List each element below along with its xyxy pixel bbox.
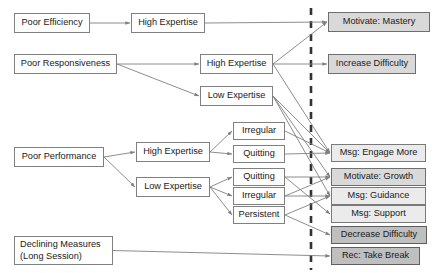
node-lo-persistent[interactable]: Persistent bbox=[233, 206, 285, 224]
node-label: Poor Efficiency bbox=[21, 17, 82, 29]
node-label: Low Expertise bbox=[208, 90, 266, 102]
node-label: High Expertise bbox=[143, 146, 203, 158]
node-label: Msg: Engage More bbox=[340, 147, 418, 159]
node-label: Quitting bbox=[243, 171, 275, 183]
node-label: Irregular bbox=[242, 125, 276, 137]
node-label: Irregular bbox=[242, 190, 276, 202]
edge-lo-persistent-to-msg-guidance bbox=[285, 196, 330, 215]
node-label: Rec: Take Break bbox=[342, 250, 409, 262]
node-hi-quitting[interactable]: Quitting bbox=[233, 145, 285, 163]
node-label: Msg: Guidance bbox=[348, 190, 410, 202]
edge-declining-measures-to-rec-take-break bbox=[113, 251, 330, 257]
node-msg-guidance[interactable]: Msg: Guidance bbox=[331, 187, 426, 205]
node-lo-quitting[interactable]: Quitting bbox=[233, 168, 285, 186]
node-label: Persistent bbox=[239, 209, 280, 221]
node-label: Msg: Support bbox=[351, 208, 406, 220]
node-msg-support[interactable]: Msg: Support bbox=[331, 205, 426, 223]
edge-lo-quitting-to-msg-support bbox=[285, 177, 330, 214]
edge-perf-high-expertise-to-hi-irregular bbox=[210, 131, 232, 152]
node-poor-efficiency[interactable]: Poor Efficiency bbox=[14, 13, 90, 33]
node-eff-high-expertise[interactable]: High Expertise bbox=[131, 13, 205, 33]
node-hi-irregular[interactable]: Irregular bbox=[233, 122, 285, 140]
node-label: Motivate: Mastery bbox=[343, 16, 416, 28]
node-label: Quitting bbox=[243, 148, 275, 160]
node-resp-low-expertise[interactable]: Low Expertise bbox=[200, 86, 273, 106]
node-poor-performance[interactable]: Poor Performance bbox=[14, 147, 104, 167]
node-increase-difficulty[interactable]: Increase Difficulty bbox=[328, 54, 416, 74]
node-perf-high-expertise[interactable]: High Expertise bbox=[136, 142, 210, 162]
edge-poor-performance-to-perf-high-expertise bbox=[104, 152, 135, 157]
node-perf-low-expertise[interactable]: Low Expertise bbox=[136, 177, 210, 197]
node-label: Motivate: Growth bbox=[344, 171, 413, 183]
node-label: Poor Performance bbox=[22, 151, 97, 163]
node-declining-measures[interactable]: Declining Measures (Long Session) bbox=[14, 236, 113, 265]
node-msg-engage-more[interactable]: Msg: Engage More bbox=[331, 144, 426, 162]
node-label: Poor Responsiveness bbox=[21, 58, 110, 70]
diagram-canvas: Poor EfficiencyHigh ExpertiseMotivate: M… bbox=[0, 0, 438, 273]
node-label: Increase Difficulty bbox=[336, 58, 408, 70]
node-poor-responsiveness[interactable]: Poor Responsiveness bbox=[14, 54, 117, 74]
node-label: Decrease Difficulty bbox=[341, 229, 417, 241]
node-label: High Expertise bbox=[138, 17, 198, 29]
edge-lo-persistent-to-decrease-difficulty bbox=[285, 215, 330, 235]
node-motivate-growth[interactable]: Motivate: Growth bbox=[331, 168, 426, 186]
node-motivate-mastery[interactable]: Motivate: Mastery bbox=[328, 12, 430, 32]
edge-poor-responsiveness-to-resp-low-expertise bbox=[117, 64, 199, 96]
node-lo-irregular[interactable]: Irregular bbox=[233, 187, 285, 205]
node-decrease-difficulty[interactable]: Decrease Difficulty bbox=[331, 226, 427, 244]
node-rec-take-break[interactable]: Rec: Take Break bbox=[331, 247, 420, 265]
edge-perf-high-expertise-to-hi-quitting bbox=[210, 152, 232, 154]
edge-perf-low-expertise-to-lo-quitting bbox=[210, 177, 232, 187]
node-label: High Expertise bbox=[207, 58, 267, 70]
edge-resp-high-expertise-to-motivate-mastery bbox=[273, 22, 327, 64]
edge-hi-quitting-to-msg-engage-more bbox=[285, 153, 330, 154]
node-label: Low Expertise bbox=[144, 181, 202, 193]
edge-lo-irregular-to-motivate-growth bbox=[285, 177, 330, 196]
edge-eff-high-expertise-to-motivate-mastery bbox=[205, 22, 327, 23]
node-label: Declining Measures (Long Session) bbox=[20, 239, 101, 263]
node-resp-high-expertise[interactable]: High Expertise bbox=[200, 54, 273, 74]
edge-poor-performance-to-perf-low-expertise bbox=[104, 157, 135, 187]
